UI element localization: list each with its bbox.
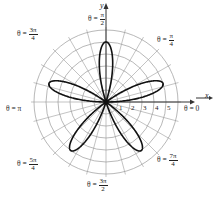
y-axis-arrow-icon <box>104 3 109 9</box>
radial-tick-4: 4 <box>155 104 159 112</box>
angle-label-pi-over-4: θ = π4 <box>157 33 174 48</box>
angle-label-pi-over-2: θ = π2 <box>88 12 105 27</box>
angle-label-7pi-over-4: θ = 7π4 <box>157 153 178 168</box>
x-label-arrow-icon <box>209 96 213 100</box>
angle-label-5pi-over-4: θ = 5π4 <box>17 157 38 172</box>
grid-spoke <box>106 102 171 140</box>
axes <box>104 3 214 105</box>
x-axis-label: x <box>205 91 209 100</box>
angle-label-3pi-over-4: θ = 3π4 <box>17 27 38 42</box>
radial-tick-5: 5 <box>167 104 171 112</box>
grid-spoke <box>69 37 107 102</box>
radial-tick-1: 1 <box>119 104 123 112</box>
y-axis-label: y <box>100 1 104 10</box>
grid-spoke <box>106 37 144 102</box>
angle-label-zero: θ = 0 <box>184 104 199 113</box>
radial-tick-2: 2 <box>131 104 135 112</box>
angle-label-pi: θ = π <box>6 104 21 113</box>
grid-spoke <box>41 102 106 140</box>
radial-tick-3: 3 <box>143 104 147 112</box>
angle-label-3pi-over-2: θ = 3π2 <box>87 178 108 193</box>
